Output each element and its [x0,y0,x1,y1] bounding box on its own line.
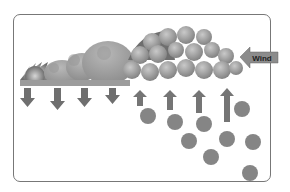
cloud-diagram: Wind [0,0,290,192]
rain-drop [203,149,219,165]
up-arrow-icon [163,90,177,110]
rain-drop [196,116,212,132]
rain-drop [167,114,183,130]
rain-drop [181,133,197,149]
down-arrow-icon [20,88,35,107]
rain-drop [140,108,156,124]
down-arrow-icon [77,88,92,107]
rain-drop [242,165,258,181]
up-arrow-icon [220,88,234,122]
up-arrow-icon [192,90,206,113]
down-arrow-icon [105,88,120,104]
cloud-stratiform [20,41,134,86]
up-arrow-icon [133,90,147,106]
downdraft-arrows [20,88,120,110]
rain-drop [219,131,235,147]
rain-drop [234,101,250,117]
rain-drop [245,134,261,150]
cloud-convective [123,26,243,81]
down-arrow-icon [50,88,65,110]
wind-label: Wind [252,54,272,63]
